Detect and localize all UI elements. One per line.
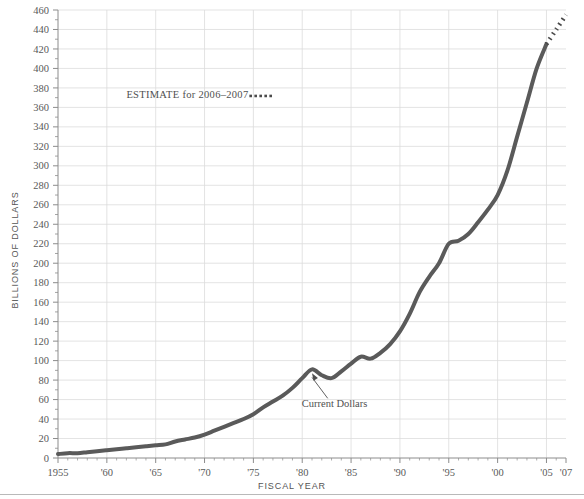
- x-tick-label: '07: [560, 467, 572, 478]
- y-tick-label: 360: [33, 102, 49, 113]
- y-tick-label: 420: [33, 44, 49, 55]
- y-tick-label: 0: [44, 453, 49, 464]
- x-axis-title: FISCAL YEAR: [258, 481, 326, 491]
- y-tick-label: 80: [39, 375, 50, 386]
- x-tick-label: '85: [345, 467, 357, 478]
- y-tick-label: 220: [33, 238, 49, 249]
- y-tick-label: 380: [33, 83, 49, 94]
- y-tick-label: 180: [33, 277, 49, 288]
- y-tick-label: 440: [33, 24, 49, 35]
- line-chart: 0204060801001201401601802002202402602803…: [0, 0, 584, 499]
- y-tick-label: 100: [33, 355, 49, 366]
- y-axis-title: BILLIONS OF DOLLARS: [10, 191, 20, 308]
- y-tick-label: 320: [33, 141, 49, 152]
- x-tick-label: '00: [491, 467, 503, 478]
- x-tick-label: '60: [101, 467, 113, 478]
- x-tick-label: '90: [394, 467, 406, 478]
- estimate-annotation: ESTIMATE for 2006–2007: [126, 89, 248, 100]
- y-tick-label: 240: [33, 219, 49, 230]
- x-tick-label: '95: [443, 467, 455, 478]
- y-tick-label: 460: [33, 5, 49, 16]
- y-tick-label: 260: [33, 199, 49, 210]
- chart-canvas: 0204060801001201401601802002202402602803…: [0, 0, 584, 499]
- y-tick-label: 60: [39, 394, 50, 405]
- y-tick-label: 140: [33, 316, 49, 327]
- y-tick-label: 280: [33, 180, 49, 191]
- x-tick-label: '65: [149, 467, 161, 478]
- y-tick-label: 20: [39, 433, 50, 444]
- y-tick-label: 40: [39, 414, 50, 425]
- bottom-divider: [0, 494, 584, 495]
- current-dollars-annotation: Current Dollars: [302, 398, 368, 409]
- y-tick-label: 160: [33, 297, 49, 308]
- chart-background: [0, 0, 584, 499]
- y-tick-label: 340: [33, 121, 49, 132]
- x-tick-label: '80: [296, 467, 308, 478]
- y-tick-label: 120: [33, 336, 49, 347]
- y-tick-label: 200: [33, 258, 49, 269]
- x-tick-label: 1955: [48, 467, 69, 478]
- x-tick-label: '05: [540, 467, 552, 478]
- x-tick-label: '75: [247, 467, 259, 478]
- x-tick-label: '70: [198, 467, 210, 478]
- y-tick-label: 300: [33, 160, 49, 171]
- y-tick-label: 400: [33, 63, 49, 74]
